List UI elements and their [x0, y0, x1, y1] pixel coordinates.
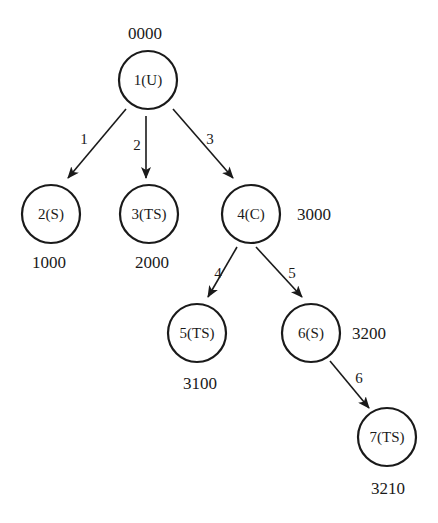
node-1: 1(U)0000	[119, 24, 177, 109]
node-6: 6(S)3200	[282, 304, 386, 362]
edge-4-6: 5	[256, 247, 302, 297]
node-label: 4(C)	[237, 206, 265, 223]
node-label: 3(TS)	[132, 206, 167, 223]
node-code: 2000	[135, 253, 169, 272]
edge-label: 5	[288, 265, 296, 281]
edges-layer: 123456	[68, 109, 369, 408]
node-3: 3(TS)2000	[120, 185, 178, 272]
node-label: 6(S)	[298, 325, 324, 342]
node-label: 2(S)	[38, 206, 64, 223]
node-label: 7(TS)	[370, 429, 405, 446]
node-code: 3200	[352, 324, 386, 343]
node-7: 7(TS)3210	[358, 408, 416, 498]
arrow-icon	[173, 109, 233, 178]
edge-1-3: 2	[133, 116, 146, 178]
edge-1-4: 3	[173, 109, 233, 178]
tree-diagram: 123456 1(U)00002(S)10003(TS)20004(C)3000…	[0, 0, 438, 523]
node-code: 3210	[371, 479, 405, 498]
node-code: 3100	[183, 374, 217, 393]
node-code: 0000	[128, 24, 162, 43]
edge-1-2: 1	[68, 109, 126, 178]
node-2: 2(S)1000	[22, 185, 80, 272]
node-code: 3000	[297, 205, 331, 224]
arrow-icon	[208, 247, 237, 297]
node-label: 1(U)	[134, 72, 162, 89]
edge-label: 1	[80, 131, 88, 147]
arrow-icon	[68, 109, 126, 178]
nodes-layer: 1(U)00002(S)10003(TS)20004(C)30005(TS)31…	[22, 24, 416, 498]
node-5: 5(TS)3100	[168, 304, 226, 393]
arrow-icon	[330, 361, 369, 408]
node-label: 5(TS)	[180, 325, 215, 342]
edge-4-5: 4	[208, 247, 237, 297]
edge-label: 2	[133, 137, 141, 153]
edge-6-7: 6	[330, 361, 369, 408]
node-code: 1000	[32, 253, 66, 272]
node-4: 4(C)3000	[222, 185, 331, 243]
edge-label: 6	[355, 370, 363, 386]
edge-label: 3	[206, 131, 214, 147]
edge-label: 4	[214, 265, 222, 281]
